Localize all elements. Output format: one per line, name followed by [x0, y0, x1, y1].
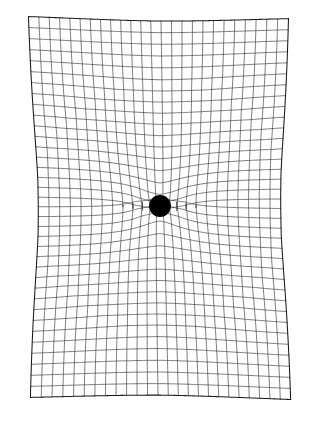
curvature-grid-canvas	[0, 0, 317, 436]
central-mass-disk	[149, 195, 171, 217]
spacetime-curvature-figure: Spacetime curvature grid around a point …	[0, 0, 317, 436]
